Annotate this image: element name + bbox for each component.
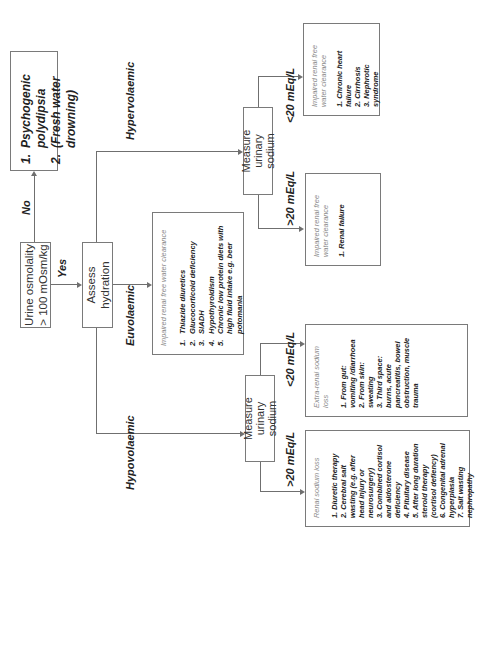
hyper-high-cause-item: 1. Renal failure — [337, 182, 346, 257]
hypo-high-cause-item: 7. Salt wasting nephropathy — [456, 439, 474, 518]
hypo-high-cause-item: 6. Congenital adrenal hyperplasia — [438, 439, 456, 518]
hypo-low-threshold: <20 mEq/L — [284, 332, 296, 387]
no-label: No — [20, 200, 32, 215]
hypo-low-cause-item: 1. From gut: vomiting /diarrhoea — [339, 333, 357, 408]
no-outcome-item: 2. (Fresh water drowning) — [49, 58, 79, 164]
no-outcome-box: 1. Psychogenic polydipsia 2. (Fresh wate… — [10, 51, 58, 171]
hypo-high-cause-item: 4. Pituitary disease — [402, 439, 411, 518]
euvolaemic-cause-item: 2. Glucocorticoid deficiency — [188, 221, 197, 346]
hypo-high-causes-box: Renal sodium loss 1. Diuretic therapy 2.… — [305, 430, 470, 527]
hypervolaemic-connector — [96, 151, 97, 242]
assess-hydration-node: Assess hydration — [82, 242, 113, 328]
urine-osmolality-text: Urine osmolality > 100 mOsm/kg — [22, 243, 50, 327]
hypo-high-cause-item: 1. Diuretic therapy — [330, 439, 339, 518]
hyponatraemia-flowchart: Urine osmolality > 100 mOsm/kg No 1. Psy… — [0, 0, 480, 670]
hyper-high-connector — [273, 228, 299, 229]
hypo-low-connector — [260, 344, 261, 375]
hypo-high-cause-item: 3. Combined cortisol and aldosterone def… — [375, 439, 402, 518]
hyper-high-arrow-icon — [299, 226, 304, 232]
no-outcome-item: 1. Psychogenic polydipsia — [19, 58, 49, 164]
hypervolaemic-label: Hypervolaemic — [124, 62, 136, 140]
hypervolaemic-measure-sodium-node: Measure urinary sodium — [243, 107, 273, 195]
euvolaemic-causes-title: Impaired renal free water clearance — [159, 221, 168, 346]
euvolaemic-cause-item: 1. Thiazide diuretics — [178, 221, 187, 346]
hyper-low-cause-item: 2. Cirrhosis — [353, 32, 362, 107]
hyper-high-stub — [258, 228, 273, 229]
hypervolaemic-connector — [96, 151, 238, 152]
hypo-high-connector — [260, 491, 300, 492]
yes-label: Yes — [56, 259, 68, 278]
hypo-low-cause-item: 3. Third space: burns, acute pancreatiti… — [375, 333, 420, 408]
no-connector — [34, 176, 35, 242]
hypo-low-cause-item: 2. From skin: sweating — [357, 333, 375, 408]
yes-connector — [51, 284, 77, 285]
hyper-high-stub — [258, 195, 259, 229]
euvolaemic-label: Euvolaemic — [124, 285, 136, 346]
hyper-high-causes-box: Impaired renal free water clearance 1. R… — [305, 173, 381, 266]
hypovolaemic-measure-sodium-node: Measure urinary sodium — [245, 375, 275, 462]
hypo-high-cause-item: 2. Cerebral salt wasting (e.g. after hea… — [339, 439, 375, 518]
euvolaemic-cause-item: 5. Chronic low protein diets with high f… — [216, 221, 244, 346]
no-arrow-icon — [31, 171, 37, 176]
hypovolaemic-connector — [96, 328, 97, 434]
hypo-high-cause-item: 5. After long duration steroid therapy (… — [411, 439, 438, 518]
hypo-high-connector — [260, 462, 261, 492]
hypo-low-causes-box: Extra-renal sodium loss 1. From gut: vom… — [305, 324, 468, 417]
assess-hydration-text: Assess hydration — [84, 243, 112, 327]
hypovolaemic-connector — [96, 433, 240, 434]
euvolaemic-cause-item: 4. Hypothyroidism — [207, 221, 216, 346]
hyper-low-threshold: <20 mEq/L — [284, 68, 296, 123]
euvolaemic-causes-box: Impaired renal free water clearance 1. T… — [152, 212, 244, 355]
hyper-low-causes-box: Impaired renal free water clearance 1. C… — [303, 23, 380, 116]
hypovolaemic-label: Hypovolaemic — [124, 415, 136, 490]
euvolaemic-cause-item: 3. SIADH — [197, 221, 206, 346]
hyper-low-cause-item: 3. Nephrotic syndrome — [362, 32, 380, 107]
urine-osmolality-node: Urine osmolality > 100 mOsm/kg — [20, 242, 51, 328]
hyper-low-connector — [258, 77, 259, 107]
hypo-high-threshold: >20 mEq/L — [284, 432, 296, 487]
hyper-high-threshold: >20 mEq/L — [284, 171, 296, 226]
hyper-low-cause-item: 1. Chronic heart failure — [335, 32, 353, 107]
